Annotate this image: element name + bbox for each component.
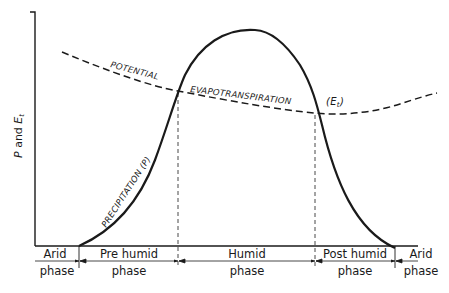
- phase-arid-left-line1: Arid: [43, 247, 66, 261]
- arrow-left-posthumid: [316, 259, 322, 263]
- phase-diagram: P and Et POTENTIAL EVAPOTRANSPIRATION (E…: [0, 0, 449, 293]
- phase-prehumid-line2: phase: [112, 264, 147, 278]
- phase-humid-line1: Humid: [228, 247, 266, 261]
- et-symbol-label: (Et): [326, 96, 344, 109]
- potential-label: POTENTIAL: [109, 59, 160, 82]
- axes: [30, 12, 418, 246]
- phase-posthumid-line2: phase: [338, 264, 373, 278]
- intersection-guides: [178, 93, 315, 268]
- arrow-left-humid: [179, 259, 185, 263]
- phase-arid-right-line1: Arid: [409, 247, 432, 261]
- phase-posthumid-line1: Post humid: [323, 247, 387, 261]
- phase-labels: Arid phase Pre humid phase Humid phase P…: [40, 247, 439, 278]
- arrow-left-prehumid: [80, 259, 86, 263]
- phase-humid-line2: phase: [230, 264, 265, 278]
- arrow-left-arid: [396, 259, 402, 263]
- precipitation-label: PRECIPITATION (P): [99, 155, 152, 230]
- y-axis-label: P and Et: [12, 114, 26, 158]
- phase-arid-left-line2: phase: [40, 264, 75, 278]
- phase-prehumid-line1: Pre humid: [100, 247, 158, 261]
- phase-arid-right-line2: phase: [404, 264, 439, 278]
- y-axis: [30, 12, 35, 246]
- evapotranspiration-label: EVAPOTRANSPIRATION: [190, 84, 293, 106]
